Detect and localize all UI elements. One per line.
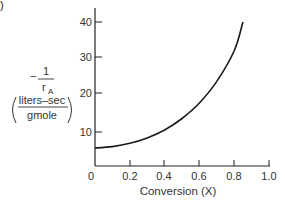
data-curve [95, 22, 243, 148]
x-tick-1.0: 1.0 [261, 170, 276, 182]
x-tick-0.8: 0.8 [226, 170, 241, 182]
x-axis-title: Conversion (X) [140, 185, 217, 197]
y-tick-30: 30 [80, 51, 92, 63]
y-tick-20: 20 [80, 87, 92, 99]
y-axis-title: − 1 r A liters–sec gmole [13, 65, 72, 123]
x-tick-0.4: 0.4 [156, 170, 171, 182]
y-units-denominator: gmole [27, 109, 57, 121]
y-tick-labels: 10 20 30 40 [80, 16, 92, 138]
figure-label: ) [0, 0, 4, 11]
y-tick-10: 10 [80, 126, 92, 138]
x-tick-0.6: 0.6 [191, 170, 206, 182]
x-ticks [130, 160, 269, 166]
chart-canvas: 10 20 30 40 0 0.2 0.4 0.6 0.8 1.0 Conver… [0, 0, 285, 204]
y-label-sign: − [30, 70, 36, 82]
y-units-numerator: liters–sec [19, 94, 66, 106]
y-label-numerator: 1 [43, 65, 49, 77]
y-ticks [95, 22, 102, 132]
y-tick-40: 40 [80, 16, 92, 28]
x-tick-labels: 0 0.2 0.4 0.6 0.8 1.0 [88, 170, 277, 182]
y-label-denominator: r [42, 81, 46, 93]
x-tick-0.2: 0.2 [122, 170, 137, 182]
x-tick-0: 0 [88, 170, 94, 182]
